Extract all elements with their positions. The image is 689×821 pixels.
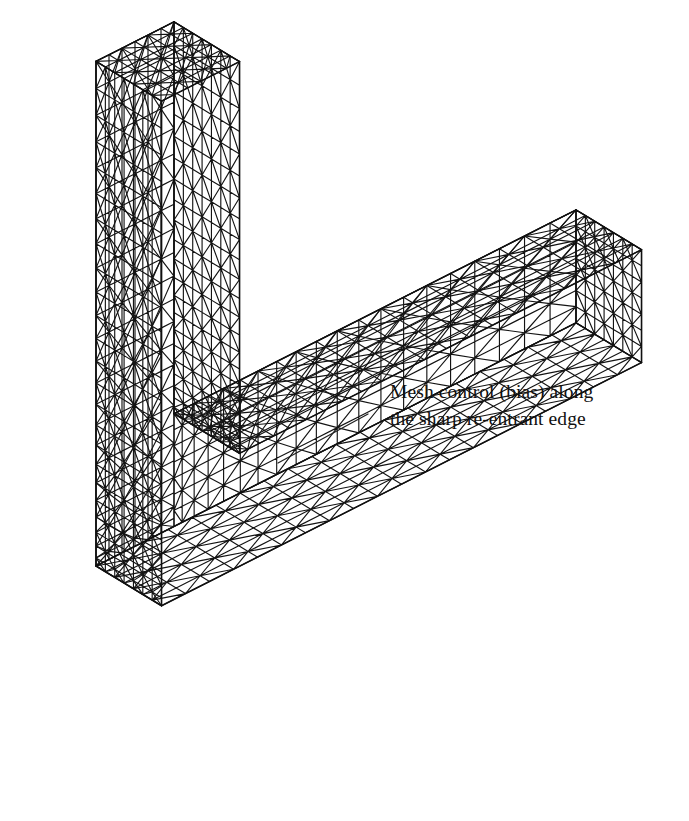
annotation-line-2: the sharp re-entrant edge (390, 405, 586, 432)
leader-line (278, 414, 368, 463)
annotation-line-1: Mesh control (bias) along (390, 378, 593, 405)
annotation-layer: Mesh control (bias) along the sharp re-e… (0, 0, 689, 821)
